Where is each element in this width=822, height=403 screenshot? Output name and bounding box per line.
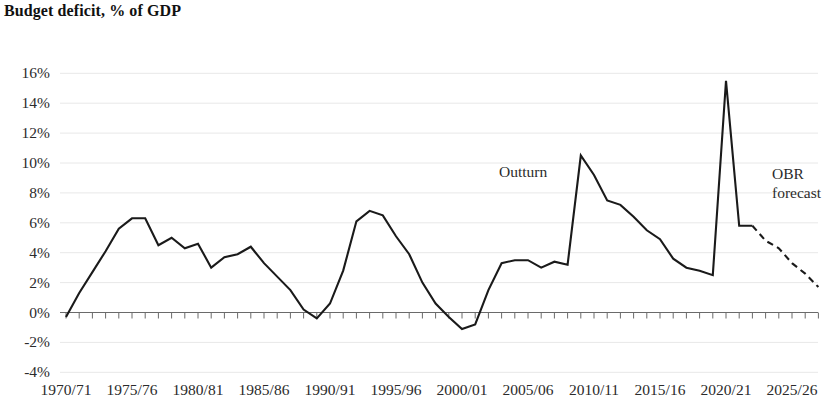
x-tick-label: 2015/16 bbox=[635, 382, 686, 398]
x-tick-label: 2000/01 bbox=[437, 382, 488, 398]
x-tick-label: 2020/21 bbox=[701, 382, 752, 398]
annotation-obr-line2: forecast bbox=[772, 184, 821, 203]
budget-deficit-chart: Budget deficit, % of GDP 16%14%12%10%8%6… bbox=[0, 0, 822, 403]
annotation-outturn: Outturn bbox=[499, 163, 547, 181]
annotation-obr-forecast: OBR forecast bbox=[772, 165, 821, 202]
annotation-obr-line1: OBR bbox=[772, 165, 821, 184]
x-tick-label: 2025/26 bbox=[767, 382, 818, 398]
x-tick-label: 1995/96 bbox=[371, 382, 422, 398]
x-tick-label: 1975/76 bbox=[107, 382, 158, 398]
x-tick-label: 2010/11 bbox=[569, 382, 619, 398]
x-tick-label: 1970/71 bbox=[41, 382, 92, 398]
x-tick-label: 1980/81 bbox=[173, 382, 224, 398]
x-tick-label: 1985/86 bbox=[239, 382, 290, 398]
x-tick-label: 1990/91 bbox=[305, 382, 356, 398]
x-tick-label: 2005/06 bbox=[503, 382, 554, 398]
x-axis: 1970/711975/761980/811985/861990/911995/… bbox=[0, 0, 822, 403]
